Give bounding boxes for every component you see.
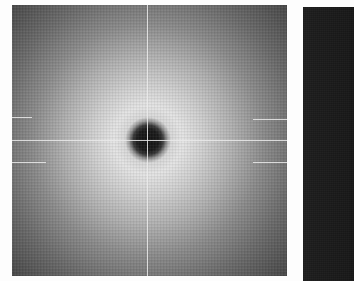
diffraction-pattern-panel <box>12 5 287 276</box>
horizontal-grid-line <box>253 119 287 120</box>
horizontal-grid-line <box>12 162 46 163</box>
dark-image-panel <box>303 7 354 281</box>
noise-texture <box>303 7 354 281</box>
horizontal-grid-line <box>253 162 287 163</box>
horizontal-grid-line <box>12 140 287 141</box>
horizontal-grid-line <box>12 117 32 118</box>
